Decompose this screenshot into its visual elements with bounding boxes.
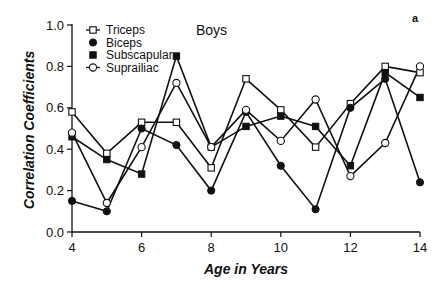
x-tick-label: 10 (274, 240, 288, 255)
data-point-filled-square-marker (312, 123, 318, 129)
y-tick-label: 1.0 (46, 18, 64, 33)
data-point-open-circle-marker (347, 173, 354, 180)
series-group (68, 53, 423, 215)
y-tick-label: 0.6 (46, 100, 64, 115)
data-point-open-circle-marker (416, 63, 423, 70)
data-point-filled-circle-marker (68, 197, 75, 204)
x-tick-label: 6 (138, 240, 145, 255)
data-point-filled-circle-marker (208, 187, 215, 194)
y-tick-label: 0.0 (46, 225, 64, 240)
data-point-filled-square-marker (278, 113, 284, 119)
legend-label: Suprailiac (106, 61, 159, 75)
legend-filled-square-icon (90, 52, 96, 58)
data-point-open-circle-marker (173, 79, 180, 86)
data-point-filled-circle-marker (173, 141, 180, 148)
legend-item-suprailiac: Suprailiac (86, 61, 159, 75)
line-chart: 0.00.20.40.60.81.0468101214 TricepsBicep… (0, 0, 447, 295)
series-line-biceps (72, 79, 420, 211)
data-point-filled-square-marker (417, 94, 423, 100)
data-point-open-square-marker (69, 109, 75, 115)
x-tick-label: 14 (413, 240, 427, 255)
data-point-open-square-marker (173, 119, 179, 125)
data-point-open-circle-marker (277, 137, 284, 144)
data-point-open-circle-marker (103, 199, 110, 206)
data-point-filled-square-marker (382, 69, 388, 75)
panel-label: a (412, 12, 419, 24)
data-point-filled-square-marker (104, 156, 110, 162)
data-point-filled-square-marker (347, 163, 353, 169)
data-point-filled-circle-marker (347, 104, 354, 111)
data-point-open-square-marker (243, 76, 249, 82)
data-point-open-circle-marker (208, 144, 215, 151)
x-tick-label: 8 (208, 240, 215, 255)
data-point-open-circle-marker (138, 144, 145, 151)
x-axis-title: Age in Years (203, 261, 288, 277)
data-point-filled-square-marker (138, 171, 144, 177)
data-point-filled-circle-marker (277, 162, 284, 169)
data-point-open-circle-marker (242, 106, 249, 113)
legend: TricepsBicepsSubscapularSuprailiac (86, 23, 173, 75)
series-markers-triceps (69, 63, 423, 171)
legend-filled-circle-icon (89, 39, 96, 46)
data-point-filled-circle-marker (138, 125, 145, 132)
data-point-open-square-marker (278, 107, 284, 113)
y-tick-label: 0.2 (46, 183, 64, 198)
data-point-open-square-marker (104, 150, 110, 156)
y-tick-label: 0.8 (46, 59, 64, 74)
y-axis-title: Correlation Coefficients (21, 51, 37, 210)
axes: 0.00.20.40.60.81.0468101214 (46, 18, 427, 256)
legend-open-square-icon (90, 27, 96, 33)
chart-title: Boys (196, 22, 227, 38)
series-suprailiac (72, 66, 420, 203)
data-point-filled-square-marker (173, 53, 179, 59)
data-point-filled-circle-marker (312, 206, 319, 213)
legend-open-circle-icon (89, 64, 96, 71)
data-point-open-circle-marker (312, 96, 319, 103)
data-point-open-square-marker (312, 144, 318, 150)
data-point-open-square-marker (382, 63, 388, 69)
data-point-open-circle-marker (382, 139, 389, 146)
data-point-filled-circle-marker (416, 179, 423, 186)
x-tick-label: 4 (68, 240, 75, 255)
y-tick-label: 0.4 (46, 142, 64, 157)
data-point-filled-circle-marker (103, 208, 110, 215)
x-tick-label: 12 (343, 240, 357, 255)
data-point-filled-square-marker (243, 123, 249, 129)
series-markers-suprailiac (68, 63, 423, 207)
series-markers-biceps (68, 75, 423, 215)
series-line-suprailiac (72, 66, 420, 203)
series-biceps (72, 79, 420, 211)
data-point-open-circle-marker (68, 129, 75, 136)
data-point-open-square-marker (208, 165, 214, 171)
